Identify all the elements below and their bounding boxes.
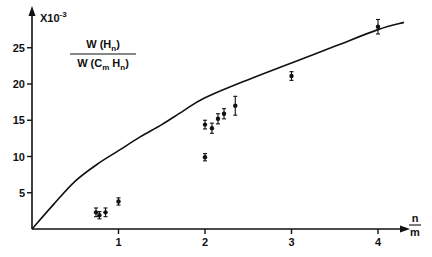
data-point — [203, 120, 207, 129]
y-unit-label: X10-3 — [40, 10, 67, 24]
data-point — [103, 208, 107, 217]
x-tick-label: 3 — [288, 236, 294, 248]
data-point — [376, 19, 380, 33]
data-point — [233, 96, 237, 115]
y-tick-label: 15 — [13, 114, 25, 126]
y-tick-label: 25 — [13, 42, 25, 54]
y-axis-formula: W (Hn) W (Cm Hn) — [70, 38, 136, 72]
formula-numerator: W (Hn) — [86, 38, 120, 53]
data-point — [289, 72, 293, 81]
x-label-denominator: m — [410, 226, 420, 238]
x-label-numerator: n — [412, 212, 419, 224]
data-point — [210, 123, 214, 133]
x-ticks: 1234 — [115, 229, 382, 248]
x-tick-label: 2 — [202, 236, 208, 248]
y-ticks: 510152025 — [13, 42, 32, 199]
data-point — [216, 114, 220, 124]
y-tick-label: 10 — [13, 151, 25, 163]
x-axis-arrow-icon — [400, 226, 410, 233]
x-tick-label: 1 — [115, 236, 121, 248]
x-axis-label: n m — [409, 212, 421, 238]
data-point — [116, 198, 120, 205]
data-point — [222, 109, 226, 119]
x-tick-label: 4 — [375, 236, 382, 248]
y-axis-arrow-icon — [29, 6, 36, 16]
y-tick-label: 20 — [13, 78, 25, 90]
formula-denominator: W (Cm Hn) — [77, 57, 129, 72]
data-point — [203, 154, 207, 161]
theory-curve — [32, 22, 404, 229]
data-points — [94, 19, 380, 218]
y-tick-label: 5 — [19, 187, 25, 199]
chart: 510152025 1234 X10-3 W (Hn) W (Cm Hn) n … — [0, 0, 432, 257]
